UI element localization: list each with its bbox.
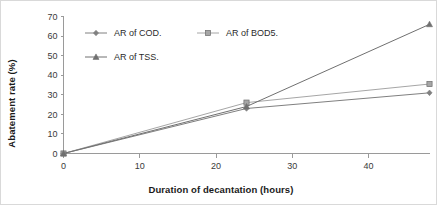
series-line-2 bbox=[64, 24, 430, 153]
y-tick-label: 10 bbox=[47, 129, 57, 139]
y-tick-label: 30 bbox=[47, 90, 57, 100]
series-line-1 bbox=[64, 84, 430, 153]
series-0-point-2-diamond-marker bbox=[427, 90, 432, 96]
y-tick-label: 70 bbox=[47, 12, 57, 22]
legend-label-1: AR of BOD5. bbox=[226, 28, 278, 38]
y-tick-label: 20 bbox=[47, 110, 57, 120]
legend-marker-1-square-marker bbox=[205, 30, 210, 35]
y-tick-label: 60 bbox=[47, 31, 57, 41]
x-tick-label: 40 bbox=[363, 161, 373, 171]
legend-item-2: AR of TSS. bbox=[85, 52, 159, 62]
legend-item-0: AR of COD. bbox=[85, 28, 162, 38]
chart-legend: AR of COD.AR of BOD5.AR of TSS. bbox=[85, 28, 278, 62]
y-tick-label: 0 bbox=[52, 149, 57, 159]
x-tick-label: 10 bbox=[135, 161, 145, 171]
series-group bbox=[61, 21, 433, 156]
x-tick-label: 20 bbox=[211, 161, 221, 171]
x-tick-label: 0 bbox=[61, 161, 66, 171]
y-tick-group: 010203040506070 bbox=[47, 12, 63, 159]
y-tick-label: 40 bbox=[47, 70, 57, 80]
chart-figure: Abatement rate (%) Duration of decantati… bbox=[0, 0, 437, 205]
x-tick-label: 30 bbox=[287, 161, 297, 171]
series-1-point-2-square-marker bbox=[427, 81, 432, 86]
series-2-point-2-triangle-marker bbox=[427, 21, 433, 27]
legend-label-2: AR of TSS. bbox=[114, 52, 159, 62]
plot-area: 010203040506070 010203040 AR of COD.AR o… bbox=[1, 1, 437, 205]
y-tick-label: 50 bbox=[47, 51, 57, 61]
x-tick-group: 010203040 bbox=[61, 154, 374, 171]
legend-item-1: AR of BOD5. bbox=[197, 28, 278, 38]
legend-marker-0-diamond-marker bbox=[93, 30, 98, 36]
legend-label-0: AR of COD. bbox=[114, 28, 162, 38]
